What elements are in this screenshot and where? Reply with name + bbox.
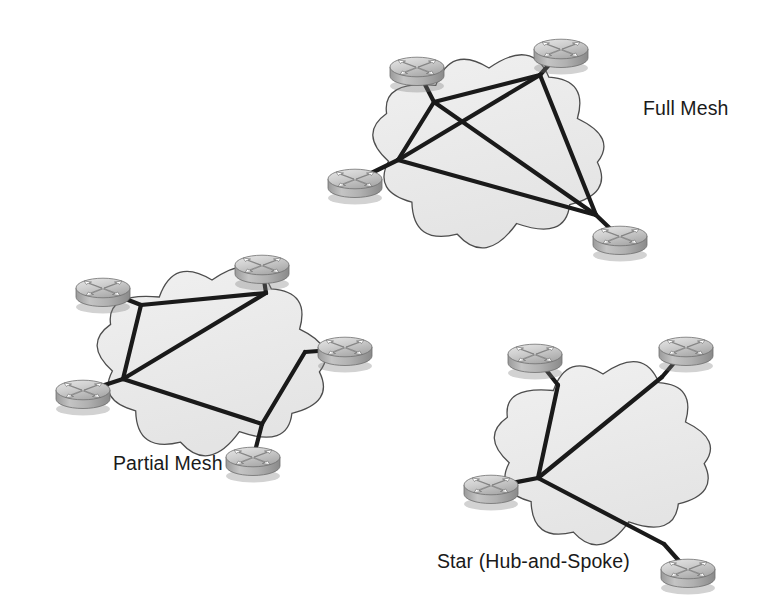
partial-mesh-router-bottom-right[interactable]	[226, 447, 280, 482]
topology-star: Star (Hub-and-Spoke)	[437, 337, 715, 594]
topology-label-full-mesh: Full Mesh	[643, 97, 728, 119]
network-topology-diagram: Full MeshPartial MeshStar (Hub-and-Spoke…	[0, 0, 772, 603]
partial-mesh-router-left[interactable]	[56, 380, 110, 415]
wan-cloud	[494, 362, 710, 545]
topology-label-star: Star (Hub-and-Spoke)	[437, 550, 630, 572]
star-router-hub[interactable]	[464, 475, 518, 510]
star-router-spoke-top-right[interactable]	[659, 337, 713, 372]
full-mesh-router-left[interactable]	[328, 169, 382, 204]
partial-mesh-router-top-left[interactable]	[76, 278, 130, 313]
topology-full-mesh: Full Mesh	[328, 39, 728, 261]
topology-label-partial-mesh: Partial Mesh	[113, 452, 223, 474]
topology-partial-mesh: Partial Mesh	[56, 255, 372, 482]
star-router-spoke-top-left[interactable]	[508, 344, 562, 379]
full-mesh-router-top-right[interactable]	[534, 39, 588, 74]
full-mesh-router-bottom-right[interactable]	[593, 226, 647, 261]
full-mesh-router-top-left[interactable]	[390, 57, 444, 92]
partial-mesh-router-right[interactable]	[318, 337, 372, 372]
wan-cloud	[97, 267, 326, 456]
partial-mesh-router-top-right[interactable]	[235, 255, 289, 290]
star-router-spoke-bottom-right[interactable]	[661, 559, 715, 594]
